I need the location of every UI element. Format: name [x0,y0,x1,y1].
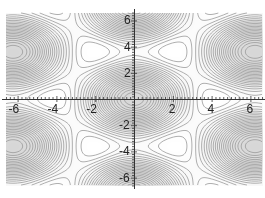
x-tick-label: 4 [208,103,215,115]
y-tick-label: -2 [119,119,130,131]
x-tick-label: 2 [169,103,176,115]
y-tick-label: 6 [124,14,131,26]
y-tick-label: 4 [124,41,131,53]
x-tick-label: 6 [246,103,253,115]
x-tick-label: -6 [9,103,20,115]
y-tick-label: 2 [124,67,131,79]
contour-plot [0,0,265,198]
y-tick-label: -6 [119,172,130,184]
x-tick-label: -4 [47,103,58,115]
y-tick-label: -4 [119,145,130,157]
x-tick-label: -2 [86,103,97,115]
